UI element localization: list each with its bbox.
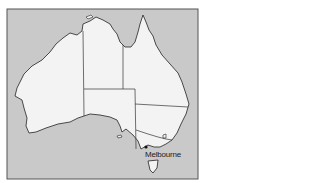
city-label-melbourne: Melbourne <box>145 150 181 159</box>
melbourne-dot <box>144 145 147 148</box>
lake <box>163 134 166 138</box>
